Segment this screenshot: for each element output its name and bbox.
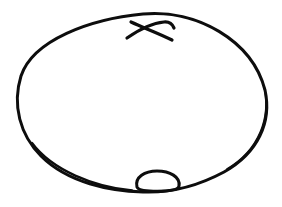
outer-ellipse — [17, 13, 266, 192]
hand-drawn-sketch — [0, 0, 282, 207]
sketch-canvas — [0, 0, 282, 207]
x-mark-icon — [127, 22, 174, 40]
outer-ellipse-bottom-left-thickening — [32, 143, 132, 191]
small-loop-outline — [137, 171, 180, 191]
small-loop — [137, 171, 180, 191]
